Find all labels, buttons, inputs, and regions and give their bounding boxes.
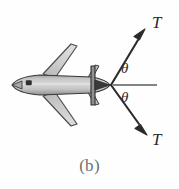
wing-upper: [43, 44, 77, 78]
thrust-label-upper: T: [152, 14, 161, 31]
thrust-arrow-upper-head: [134, 29, 145, 40]
thrust-label-lower: T: [152, 131, 161, 148]
tail-fin: [91, 66, 95, 105]
angle-label-upper: θ: [121, 61, 128, 76]
airplane-graphic: [12, 44, 110, 126]
figure-panel-b: T T θ θ (b): [0, 0, 179, 189]
force-vectors: [111, 29, 157, 135]
angle-label-lower: θ: [121, 90, 128, 105]
thrust-arrow-lower-head: [135, 125, 147, 136]
figure-caption: (b): [0, 156, 179, 176]
wing-lower: [43, 92, 77, 126]
cockpit-window: [26, 81, 32, 86]
